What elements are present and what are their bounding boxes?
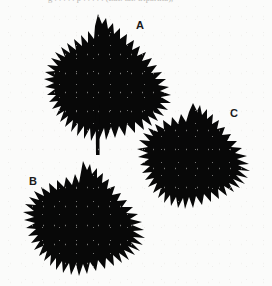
plate-label-b: B	[29, 176, 37, 187]
plate-label-a: A	[136, 20, 144, 31]
plate-label-c: C	[230, 108, 238, 119]
leaf-silhouette-c	[124, 101, 269, 220]
caption-text: g . . . . . p . . . . . (Lat. lat. tripa…	[48, 0, 238, 3]
leaf-silhouette-figure: g . . . . . p . . . . . (Lat. lat. tripa…	[0, 0, 272, 286]
caption-strip: g . . . . . p . . . . . (Lat. lat. tripa…	[0, 0, 272, 9]
